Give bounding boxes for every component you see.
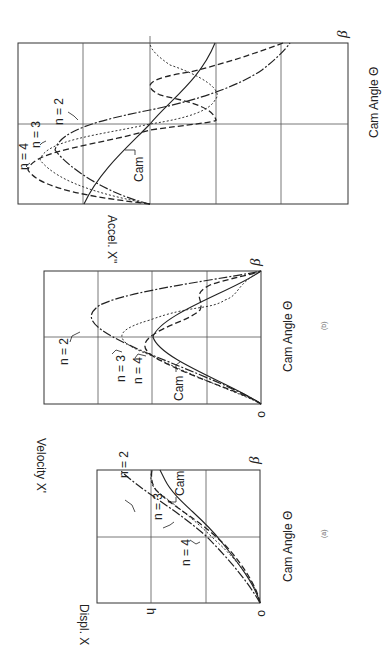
curve-n4 — [145, 271, 261, 404]
label-n2: n = 2 — [57, 338, 71, 365]
curve-n3 — [151, 470, 260, 603]
leader-n3 — [112, 350, 122, 354]
label-cam: Cam — [132, 157, 146, 182]
curve-cam — [84, 43, 215, 204]
leader-cam — [125, 150, 135, 155]
y-axis-label: Accel. X" — [105, 215, 119, 263]
curve-n2 — [55, 43, 290, 204]
label-cam: Cam — [172, 376, 186, 401]
acceleration-chart: n = 4 n = 3 n = 2 Cam β Accel. X" Cam An… — [17, 30, 381, 263]
curve-n2 — [120, 470, 260, 603]
x-end-beta: β — [247, 258, 263, 267]
velocity-frame — [44, 271, 261, 404]
label-n2: n = 2 — [52, 98, 66, 125]
caption-a: (a) — [320, 529, 328, 538]
curve-n3 — [40, 43, 217, 204]
x-start-o: o — [255, 610, 269, 617]
label-n2: n = 2 — [117, 451, 131, 478]
x-axis-label: Cam Angle Θ — [281, 511, 295, 582]
leader-cam — [176, 362, 180, 372]
x-start-o: o — [255, 411, 269, 418]
label-n3: n = 3 — [114, 355, 128, 382]
x-end-beta: β — [246, 456, 262, 465]
y-axis-label: Velocity X' — [34, 438, 48, 493]
cam-curves-figure: n = 2 n = 3 n = 4 Cam h o β Displ. X Cam… — [0, 0, 387, 655]
displacement-chart: n = 2 n = 3 n = 4 Cam h o β Displ. X Cam… — [77, 451, 328, 646]
leader-n3 — [163, 522, 174, 528]
x-axis-label: Cam Angle Θ — [281, 301, 295, 372]
y-axis-label: Displ. X — [77, 604, 91, 645]
leader-n2 — [125, 500, 135, 512]
x-axis-label: Cam Angle Θ — [367, 67, 381, 138]
leader-n2 — [68, 112, 78, 120]
label-n3: n = 3 — [151, 493, 165, 520]
label-n4: n = 4 — [131, 357, 145, 384]
label-cam: Cam — [173, 471, 187, 496]
caption-b: (b) — [320, 321, 328, 330]
acceleration-frame — [18, 43, 348, 204]
x-end-beta: β — [334, 30, 350, 39]
velocity-chart: n = 2 n = 3 n = 4 Cam o β Velocity X' Ca… — [34, 258, 328, 493]
y-tick-h: h — [144, 608, 158, 615]
label-n4: n = 4 — [179, 539, 193, 566]
